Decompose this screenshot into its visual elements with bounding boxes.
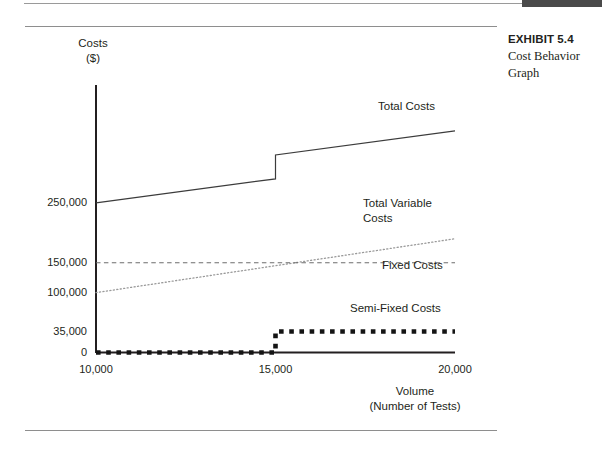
y-tick-label-35000: 35,000 — [25, 325, 87, 337]
x-tick-label-15000: 15,000 — [241, 363, 311, 375]
exhibit-page: EXHIBIT 5.4 Cost Behavior Graph Costs ($… — [0, 0, 602, 449]
series-line-semi-fixed-costs — [96, 332, 455, 353]
y-axis-title-line-1: Costs — [62, 36, 124, 51]
x-axis-title-line-1: Volume — [335, 384, 495, 399]
chart-plot-svg — [0, 0, 602, 449]
series-label-total-costs: Total Costs — [378, 99, 435, 114]
y-tick-label-150000: 150,000 — [25, 256, 87, 268]
y-tick-label-0: 0 — [25, 346, 87, 358]
series-label-fixed-costs: Fixed Costs — [382, 258, 443, 273]
series-line-total-costs — [96, 131, 455, 203]
x-tick-label-10000: 10,000 — [61, 363, 131, 375]
y-tick-label-250000: 250,000 — [25, 196, 87, 208]
y-axis-title: Costs ($) — [62, 36, 124, 66]
series-label-total-variable-costs: Total Variable Costs — [363, 196, 461, 226]
y-tick-label-100000: 100,000 — [25, 286, 87, 298]
series-label-semi-fixed-costs: Semi-Fixed Costs — [350, 301, 441, 316]
x-axis-title: Volume (Number of Tests) — [335, 384, 495, 414]
x-axis-title-line-2: (Number of Tests) — [335, 399, 495, 414]
cost-behavior-chart: Costs ($) 250,000 150,000 100,000 35,000… — [0, 0, 602, 449]
x-tick-label-20000: 20,000 — [420, 363, 490, 375]
y-axis-title-line-2: ($) — [62, 51, 124, 66]
